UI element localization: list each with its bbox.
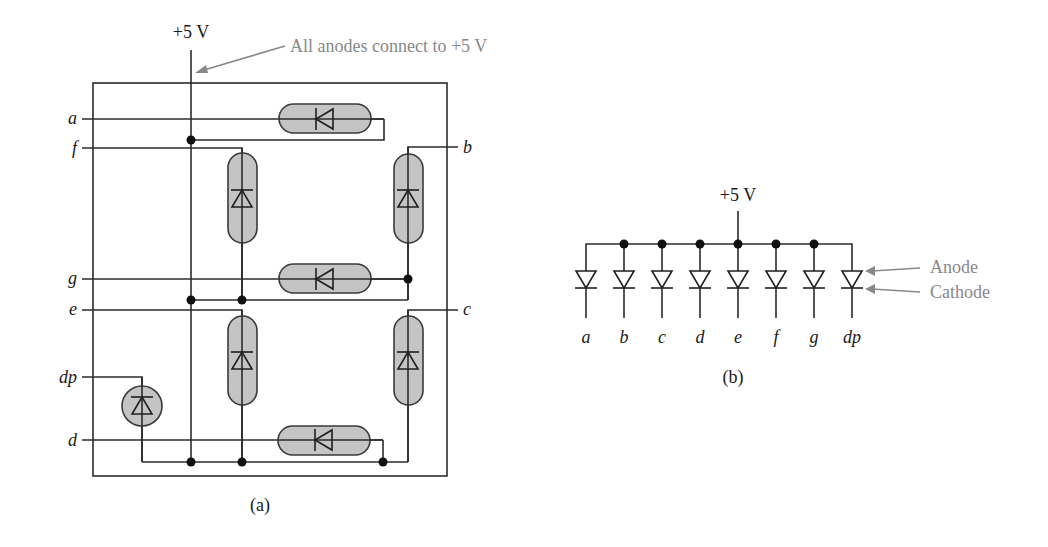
pin-label-d: d	[68, 430, 78, 450]
cathode-arrow	[872, 289, 920, 292]
diode-label-dp: dp	[843, 327, 861, 347]
pin-label-e: e	[69, 299, 77, 319]
diode-label-f: f	[773, 327, 781, 347]
junction-dot	[187, 458, 196, 467]
anode-label: Anode	[930, 257, 978, 277]
arrowhead-icon	[865, 266, 875, 276]
junction-dot	[238, 296, 247, 305]
supply-label: +5 V	[173, 22, 209, 42]
pin-label-a: a	[68, 108, 77, 128]
junction-dot	[404, 275, 413, 284]
supply-label-b: +5 V	[720, 185, 756, 205]
junction-dot	[379, 458, 388, 467]
figure-a-seven-segment-display: +5 V All anodes connect to +5 V a f b g …	[59, 22, 487, 516]
pin-label-g: g	[68, 268, 77, 288]
pin-label-b: b	[463, 137, 472, 157]
diode-a	[575, 271, 597, 318]
arrowhead-icon	[865, 284, 875, 294]
diode-dp	[841, 271, 863, 318]
junction-dot	[187, 136, 196, 145]
diode-g	[803, 240, 825, 319]
caption-a: (a)	[250, 495, 270, 516]
diode-d	[689, 240, 711, 319]
seven-segment-led-diagram: +5 V All anodes connect to +5 V a f b g …	[0, 0, 1048, 547]
junction-dot	[238, 458, 247, 467]
diode-c	[651, 240, 673, 319]
caption-b: (b)	[723, 367, 744, 388]
junction-dot	[187, 296, 196, 305]
diode-label-a: a	[582, 327, 591, 347]
pin-label-f: f	[72, 138, 80, 158]
diode-label-e: e	[734, 327, 742, 347]
arrowhead-icon	[195, 65, 208, 73]
cathode-label: Cathode	[930, 282, 990, 302]
pin-label-dp: dp	[59, 367, 77, 387]
diode-label-d: d	[696, 327, 706, 347]
diode-label-g: g	[810, 327, 819, 347]
anode-arrow	[872, 268, 920, 271]
anodes-annotation: All anodes connect to +5 V	[290, 36, 487, 56]
diode-f	[765, 240, 787, 319]
diode-label-c: c	[658, 327, 666, 347]
diode-b	[613, 240, 635, 319]
annotation-arrow	[204, 46, 285, 70]
pin-label-c: c	[463, 299, 471, 319]
diode-label-b: b	[620, 327, 629, 347]
diode-e	[727, 240, 749, 319]
figure-b-common-anode-schematic: +5 V	[575, 185, 990, 388]
